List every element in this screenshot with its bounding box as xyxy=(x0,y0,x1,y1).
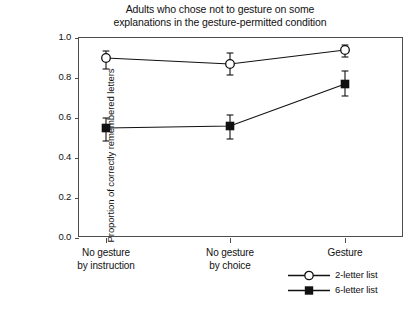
plot-area: Proportion of correctly remembered lette… xyxy=(78,37,403,237)
series-line-1 xyxy=(106,84,345,128)
data-point-0-0 xyxy=(102,51,111,69)
x-tick-mark xyxy=(345,238,346,243)
data-series-layer xyxy=(79,38,404,238)
y-tick-label: 0.2 xyxy=(46,191,71,202)
chart-title-line-2: explanations in the gesture-permitted co… xyxy=(50,16,390,29)
series-line-0 xyxy=(106,50,345,64)
legend-label: 6-letter list xyxy=(335,284,378,295)
y-tick-label: 0.0 xyxy=(46,231,71,242)
chart-title-line-1: Adults who chose not to gesture on some xyxy=(50,3,390,16)
y-tick-label: 0.6 xyxy=(46,111,71,122)
chart-legend: 2-letter list 6-letter list xyxy=(287,268,407,298)
chart-title: Adults who chose not to gesture on some … xyxy=(50,3,390,29)
open-circle-marker-icon xyxy=(287,268,331,283)
x-tick-label: No gesture by instruction xyxy=(51,247,161,272)
x-tick-label-line-1: No gesture xyxy=(51,247,161,260)
data-point-1-1 xyxy=(226,115,235,139)
data-point-0-2 xyxy=(341,45,350,57)
x-tick-mark xyxy=(106,238,107,243)
chart-figure: Adults who chose not to gesture on some … xyxy=(0,0,411,309)
legend-item-6-letter-list: 6-letter list xyxy=(287,283,407,298)
x-tick-label-line-1: No gesture xyxy=(175,247,285,260)
y-tick-label: 0.4 xyxy=(46,151,71,162)
data-point-1-0 xyxy=(102,118,111,141)
data-point-0-1 xyxy=(226,53,235,75)
x-tick-label: Gesture xyxy=(290,247,400,260)
filled-square-marker-icon xyxy=(287,283,331,298)
data-point-1-2 xyxy=(341,71,350,96)
legend-item-2-letter-list: 2-letter list xyxy=(287,268,407,283)
x-tick-label: No gesture by choice xyxy=(175,247,285,272)
x-tick-label-line-2: by choice xyxy=(175,260,285,273)
x-tick-mark xyxy=(230,238,231,243)
y-tick-label: 0.8 xyxy=(46,71,71,82)
y-tick-label: 1.0 xyxy=(46,31,71,42)
legend-label: 2-letter list xyxy=(335,269,378,280)
x-tick-label-line-2: by instruction xyxy=(51,260,161,273)
x-tick-label-line-1: Gesture xyxy=(290,247,400,260)
